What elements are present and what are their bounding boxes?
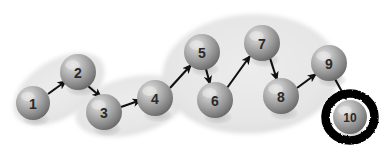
- sphere-1: [16, 86, 50, 120]
- sphere-7: [244, 25, 280, 61]
- cluster-group-layer: [2, 10, 342, 146]
- diagram-svg: 12345678910: [0, 0, 390, 150]
- sphere-10: [333, 100, 367, 134]
- sphere-8: [263, 78, 299, 114]
- sphere-highlight-5: [189, 40, 203, 50]
- sphere-4: [137, 80, 173, 116]
- node-9[interactable]: 9: [311, 45, 347, 81]
- sphere-9: [311, 45, 347, 81]
- sphere-highlight-7: [249, 31, 263, 41]
- node-7[interactable]: 7: [244, 25, 280, 61]
- diagram-canvas: 12345678910: [0, 0, 390, 150]
- sphere-3: [86, 94, 122, 130]
- sphere-highlight-10: [338, 106, 352, 115]
- sphere-highlight-4: [142, 86, 156, 96]
- node-6[interactable]: 6: [197, 82, 233, 118]
- sphere-highlight-3: [91, 100, 105, 110]
- sphere-5: [184, 34, 220, 70]
- sphere-highlight-8: [268, 84, 282, 94]
- node-10[interactable]: 10: [326, 94, 375, 141]
- node-3[interactable]: 3: [86, 94, 122, 130]
- sphere-highlight-6: [202, 88, 216, 98]
- sphere-highlight-9: [316, 51, 330, 61]
- node-2[interactable]: 2: [60, 54, 96, 90]
- sphere-highlight-2: [65, 60, 79, 70]
- sphere-2: [60, 54, 96, 90]
- sphere-highlight-1: [21, 92, 35, 101]
- node-5[interactable]: 5: [184, 34, 220, 70]
- sphere-6: [197, 82, 233, 118]
- node-1[interactable]: 1: [16, 86, 50, 120]
- node-4[interactable]: 4: [137, 80, 173, 116]
- node-8[interactable]: 8: [263, 78, 299, 114]
